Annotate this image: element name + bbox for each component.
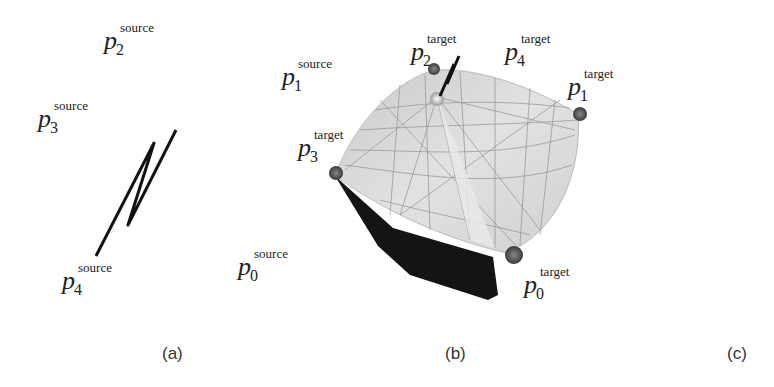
control-point-p1-target [573,107,587,121]
source-stroke [96,130,176,256]
caption-a: (a) [162,344,183,364]
control-point-p0-target [505,246,523,264]
control-point-p3-target [329,166,343,180]
label-p4-target: p4target [505,37,526,67]
label-p1-source: p1source [282,62,303,92]
caption-c: (c) [727,344,747,364]
label-p2-target: p2target [411,37,432,67]
label-p3-source: p3source [38,104,59,134]
label-p4-source: p4source [62,266,83,296]
label-p1-target: p1target [568,72,589,102]
caption-b: (b) [445,344,466,364]
label-p0-source: p0source [238,252,259,282]
label-p0-target: p0target [524,270,545,300]
figure-canvas [0,0,774,387]
label-p2-source: p2source [104,26,125,56]
label-p3-target: p3target [298,133,319,163]
